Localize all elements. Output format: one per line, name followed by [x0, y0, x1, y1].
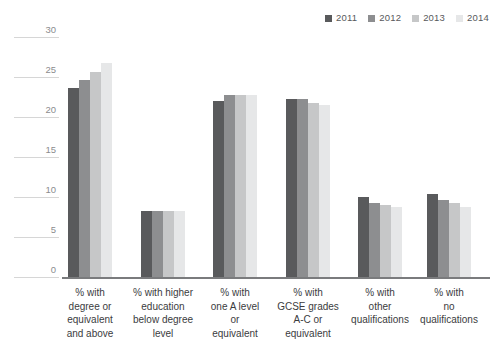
bar-2014[interactable] [174, 211, 185, 277]
bar-chart: 2011201220132014 051015202530 % with deg… [0, 0, 497, 356]
bar-2011[interactable] [286, 99, 297, 277]
bar-group [358, 32, 402, 277]
bar-group [141, 32, 185, 277]
y-axis-tick-label: 20 [16, 105, 56, 115]
bar-2012[interactable] [438, 200, 449, 277]
bar-2014[interactable] [101, 63, 112, 277]
bar-2013[interactable] [235, 95, 246, 277]
bar-group [213, 32, 257, 277]
category-label: % with degree or equivalent and above [51, 286, 129, 340]
axis-baseline-stub [14, 277, 59, 278]
y-gridline [14, 77, 59, 78]
bar-2011[interactable] [68, 88, 79, 277]
y-gridline [14, 237, 59, 238]
y-axis-tick-label: 30 [16, 25, 56, 35]
y-axis-tick-label: 5 [16, 225, 56, 235]
bar-group [68, 32, 112, 277]
bar-2012[interactable] [369, 203, 380, 277]
bar-2014[interactable] [246, 95, 257, 277]
bar-group [427, 32, 471, 277]
y-gridline [14, 197, 59, 198]
bar-group [286, 32, 330, 277]
x-axis-baseline [62, 277, 490, 279]
bar-2013[interactable] [380, 205, 391, 277]
category-label: % with GCSE grades A-C or equivalent [267, 286, 349, 340]
bar-2012[interactable] [79, 80, 90, 277]
category-axis-labels: % with degree or equivalent and above% w… [0, 286, 497, 356]
bar-2012[interactable] [297, 99, 308, 277]
category-label: % with one A level or equivalent [195, 286, 275, 340]
bar-2011[interactable] [427, 194, 438, 277]
y-axis-tick-label: 10 [16, 185, 56, 195]
y-axis-tick-label: 15 [16, 145, 56, 155]
category-label: % with other qualifications [341, 286, 419, 327]
bar-2012[interactable] [224, 95, 235, 277]
bar-2012[interactable] [152, 211, 163, 277]
bar-2011[interactable] [358, 197, 369, 277]
category-label: % with higher education below degree lev… [121, 286, 205, 340]
bar-2013[interactable] [308, 103, 319, 277]
y-gridline [14, 157, 59, 158]
y-axis-tick-label: 25 [16, 65, 56, 75]
y-gridline [14, 37, 59, 38]
bar-2011[interactable] [141, 211, 152, 277]
y-gridline [14, 117, 59, 118]
bar-2013[interactable] [163, 211, 174, 277]
bar-2011[interactable] [213, 101, 224, 277]
bar-2013[interactable] [449, 203, 460, 277]
bar-2013[interactable] [90, 72, 101, 277]
y-axis-tick-label: 0 [16, 265, 56, 275]
bar-2014[interactable] [391, 207, 402, 277]
bar-2014[interactable] [460, 207, 471, 277]
bar-2014[interactable] [319, 105, 330, 277]
category-label: % with no qualifications [409, 286, 489, 327]
